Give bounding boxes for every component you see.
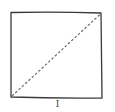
square-diagram (0, 0, 115, 112)
diagram-label: I (0, 99, 115, 110)
dashed-diagonal (12, 14, 101, 97)
